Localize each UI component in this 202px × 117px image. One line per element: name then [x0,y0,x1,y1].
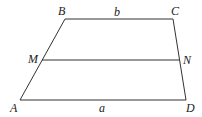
label-vertex-m: M [27,52,39,66]
trapezoid-diagram: B b C M N A a D [0,0,202,117]
label-vertex-n: N [182,53,192,67]
label-vertex-b: B [58,4,66,18]
label-side-b: b [114,5,120,19]
label-vertex-a: A [9,101,18,115]
label-side-a: a [99,101,105,115]
label-vertex-c: C [171,4,180,18]
label-vertex-d: D [185,101,195,115]
